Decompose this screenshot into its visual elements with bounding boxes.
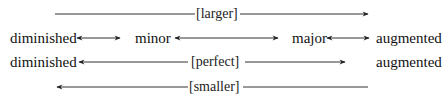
perfect-label: [perfect] [190, 54, 240, 70]
quality-diminished: diminished [10, 30, 77, 46]
perfect-row-augmented: augmented [376, 54, 442, 70]
smaller-label: [smaller] [188, 79, 241, 95]
larger-label: [larger] [195, 6, 239, 22]
quality-minor: minor [135, 30, 171, 46]
quality-major: major [292, 30, 327, 46]
perfect-row-diminished: diminished [10, 54, 77, 70]
quality-augmented: augmented [376, 30, 442, 46]
